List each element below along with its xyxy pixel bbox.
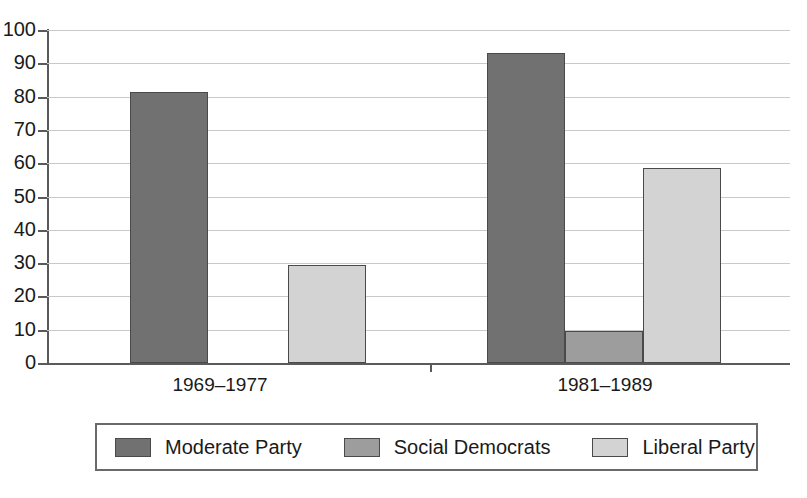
y-tick-80	[38, 97, 47, 99]
category-label-1: 1981–1989	[495, 374, 715, 396]
plot-area	[47, 30, 790, 363]
y-axis-label-70: 70	[0, 119, 36, 139]
y-tick-10	[38, 330, 47, 332]
y-axis-label-10: 10	[0, 319, 36, 339]
y-tick-70	[38, 130, 47, 132]
legend-label-social-democrats: Social Democrats	[394, 436, 551, 458]
legend-swatch-liberal-party-icon	[592, 438, 628, 457]
y-axis-label-80: 80	[0, 86, 36, 106]
legend-swatch-moderate-party-icon	[115, 438, 151, 457]
gridline-0	[47, 363, 790, 365]
gridline-100	[47, 30, 790, 31]
y-tick-20	[38, 296, 47, 298]
y-axis-label-20: 20	[0, 285, 36, 305]
y-axis-label-30: 30	[0, 252, 36, 272]
legend-swatch-social-democrats-icon	[344, 438, 380, 457]
y-axis-label-40: 40	[0, 219, 36, 239]
y-axis-label-0: 0	[0, 352, 36, 372]
legend-label-moderate-party: Moderate Party	[165, 436, 302, 458]
y-tick-30	[38, 263, 47, 265]
gridline-90	[47, 63, 790, 64]
y-axis-label-100: 100	[0, 19, 36, 39]
y-axis-label-50: 50	[0, 186, 36, 206]
bar-chart: 1009080706050403020100 1969–1977 1981–19…	[0, 0, 807, 498]
bar-1-0	[487, 53, 565, 363]
y-tick-40	[38, 230, 47, 232]
category-label-0: 1969–1977	[110, 374, 330, 396]
legend-item-liberal-party[interactable]: Liberal Party	[592, 436, 754, 458]
bar-0-0	[130, 92, 208, 363]
legend-item-social-democrats[interactable]: Social Democrats	[344, 436, 551, 458]
y-axis-tick-labels: 1009080706050403020100	[0, 0, 36, 498]
legend: Moderate Party Social Democrats Liberal …	[95, 423, 758, 471]
y-tick-0	[38, 363, 47, 365]
y-tick-50	[38, 197, 47, 199]
bar-1-1	[565, 331, 643, 363]
y-axis-label-60: 60	[0, 152, 36, 172]
y-tick-100	[38, 30, 47, 32]
y-tick-60	[38, 163, 47, 165]
bar-1-2	[643, 168, 721, 363]
legend-label-liberal-party: Liberal Party	[642, 436, 754, 458]
legend-item-moderate-party[interactable]: Moderate Party	[115, 436, 302, 458]
y-axis-label-90: 90	[0, 52, 36, 72]
y-tick-90	[38, 63, 47, 65]
x-axis-tick-center	[430, 363, 432, 372]
bar-0-2	[288, 265, 366, 363]
